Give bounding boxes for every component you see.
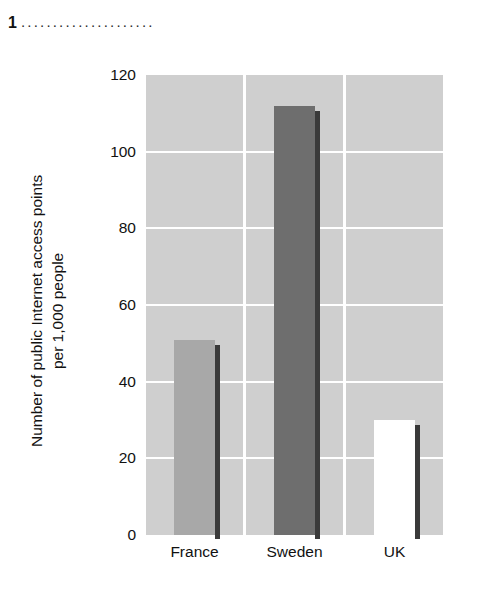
- bar-uk[interactable]: [374, 420, 415, 535]
- y-axis-tick-label: 20: [119, 449, 136, 467]
- bar-body: [174, 340, 215, 536]
- bar-slot: [346, 75, 443, 535]
- bar-shadow: [315, 111, 320, 539]
- bar-chart: 1 ..................... Number of public…: [0, 0, 478, 596]
- bar-body: [274, 106, 315, 535]
- y-axis-tick-label: 80: [119, 219, 136, 237]
- y-axis-tick-label: 0: [127, 526, 136, 544]
- y-axis-tick-label: 120: [110, 66, 136, 84]
- chart-panel: [346, 75, 443, 535]
- plot-area: [146, 75, 443, 535]
- bar-slot: [146, 75, 243, 535]
- y-axis-tick-label: 40: [119, 373, 136, 391]
- bar-shadow: [215, 345, 220, 540]
- x-axis-category-label: France: [146, 543, 243, 561]
- dotted-leader-icon: .....................: [21, 13, 155, 30]
- chart-panel: [146, 75, 243, 535]
- x-axis-tick-labels: FranceSwedenUK: [146, 543, 443, 561]
- bar-slot: [246, 75, 343, 535]
- bar-body: [374, 420, 415, 535]
- figure-number: 1: [8, 14, 17, 32]
- bar-sweden[interactable]: [274, 106, 315, 535]
- x-axis-category-label: Sweden: [246, 543, 343, 561]
- y-axis-tick-label: 60: [119, 296, 136, 314]
- chart-panel: [246, 75, 343, 535]
- x-axis-category-label: UK: [346, 543, 443, 561]
- bar-france[interactable]: [174, 340, 215, 536]
- y-axis-tick-labels: 020406080100120: [78, 75, 136, 535]
- y-axis-title: Number of public Internet access points …: [27, 111, 69, 511]
- y-axis-tick-label: 100: [110, 143, 136, 161]
- bar-shadow: [415, 425, 420, 539]
- figure-caption-line: 1 .....................: [8, 14, 155, 32]
